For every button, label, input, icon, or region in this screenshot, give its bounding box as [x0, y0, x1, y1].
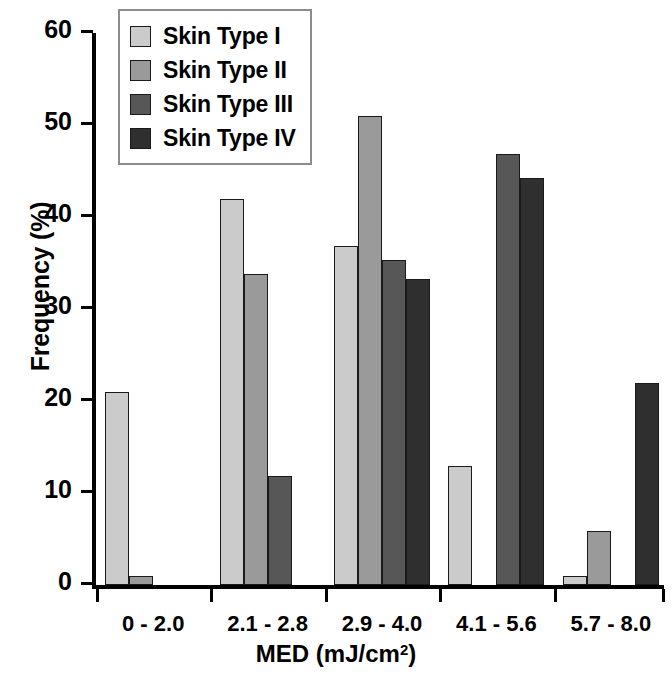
bar [129, 576, 153, 585]
bar [448, 466, 472, 585]
y-axis-tick: 10 [81, 490, 93, 493]
legend-item[interactable]: Skin Type I [130, 19, 296, 53]
bar-group [563, 33, 659, 585]
y-axis-tick: 30 [81, 306, 93, 309]
bar-group [448, 33, 544, 585]
bar [382, 260, 406, 585]
y-axis-tick-label: 40 [44, 199, 72, 228]
y-axis-tick-label: 20 [44, 383, 72, 412]
y-axis-tick-label: 50 [44, 107, 72, 136]
x-axis-tick [325, 589, 328, 602]
bar [220, 199, 244, 585]
bar [496, 154, 520, 585]
legend-label: Skin Type I [163, 23, 281, 50]
x-axis-title: MED (mJ/cm2) [0, 640, 672, 668]
x-axis-title-superscript: 2 [400, 642, 408, 658]
bar [635, 383, 659, 585]
y-axis-tick: 40 [81, 214, 93, 217]
bar [406, 279, 430, 585]
bar [268, 476, 292, 585]
legend-swatch-icon [130, 60, 151, 81]
y-axis-tick-label: 10 [44, 475, 72, 504]
y-axis-tick-label: 0 [58, 567, 72, 596]
legend-item[interactable]: Skin Type IV [130, 121, 296, 155]
bar [358, 116, 382, 585]
y-axis-line [92, 33, 96, 586]
y-axis-tick: 20 [81, 398, 93, 401]
legend-item[interactable]: Skin Type II [130, 53, 296, 87]
legend-label: Skin Type III [163, 91, 293, 118]
legend-swatch-icon [130, 94, 151, 115]
bar [520, 178, 544, 585]
bar-group [334, 33, 430, 585]
bar [563, 576, 587, 585]
x-axis-tick [662, 589, 665, 602]
x-axis-tick [554, 589, 557, 602]
x-axis-tick-label: 4.1 - 5.6 [456, 611, 537, 637]
y-axis-tick: 0 [81, 582, 93, 585]
y-axis-tick-label: 60 [44, 15, 72, 44]
bar [105, 392, 129, 585]
bar [244, 274, 268, 585]
bar [587, 531, 611, 585]
x-axis-tick-label: 0 - 2.0 [122, 611, 184, 637]
legend-label: Skin Type II [163, 57, 287, 84]
legend-item[interactable]: Skin Type III [130, 87, 296, 121]
legend-swatch-icon [130, 26, 151, 47]
legend-label: Skin Type IV [163, 125, 296, 152]
bar-chart-figure: Frequency (%) 0102030405060 0 - 2.02.1 -… [0, 0, 672, 676]
x-axis-tick-label: 2.1 - 2.8 [227, 611, 308, 637]
y-axis-tick: 50 [81, 122, 93, 125]
x-axis-tick [439, 589, 442, 602]
y-axis-tick-label: 30 [44, 291, 72, 320]
x-axis-line [92, 585, 664, 589]
x-axis-tick-label: 2.9 - 4.0 [342, 611, 423, 637]
x-axis-tick-label: 5.7 - 8.0 [570, 611, 651, 637]
bar [334, 246, 358, 585]
legend-swatch-icon [130, 128, 151, 149]
legend: Skin Type ISkin Type IISkin Type IIISkin… [118, 9, 312, 165]
x-axis-tick [96, 589, 99, 602]
x-axis-tick [210, 589, 213, 602]
y-axis-tick: 60 [81, 30, 93, 33]
